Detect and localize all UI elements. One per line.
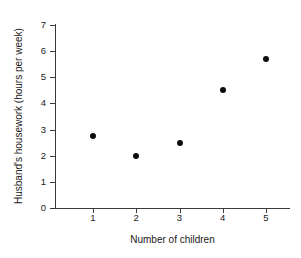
- y-axis-tick-label: 0: [30, 203, 46, 213]
- y-axis-tick: [50, 103, 55, 104]
- y-axis-tick-label: 2: [30, 151, 46, 161]
- y-axis-tick: [50, 182, 55, 183]
- y-axis-tick-label: 3: [30, 125, 46, 135]
- x-axis-title: Number of children: [55, 234, 290, 245]
- y-axis-tick: [50, 156, 55, 157]
- data-point: [263, 56, 269, 62]
- y-axis-tick-label: 6: [30, 46, 46, 56]
- y-axis-tick: [50, 25, 55, 26]
- x-axis-tick-label: 3: [177, 213, 182, 223]
- data-point: [220, 87, 226, 93]
- y-axis-tick-label: 7: [30, 20, 46, 30]
- y-axis-tick-label: 1: [30, 177, 46, 187]
- data-point: [90, 133, 96, 139]
- x-axis-tick-label: 5: [263, 213, 268, 223]
- x-axis-tick-label: 1: [90, 213, 95, 223]
- y-axis-line: [55, 24, 56, 209]
- data-point: [133, 153, 139, 159]
- x-axis-tick-label: 4: [220, 213, 225, 223]
- y-axis-tick-label: 4: [30, 99, 46, 109]
- x-axis-line: [55, 208, 290, 209]
- x-axis-tick-label: 2: [134, 213, 139, 223]
- y-axis-tick: [50, 130, 55, 131]
- y-axis-tick: [50, 77, 55, 78]
- scatter-plot-figure: 01234567 12345 Husband's housework (hour…: [0, 0, 301, 258]
- y-axis-title: Husband's housework (hours per week): [11, 24, 25, 209]
- y-axis-tick: [50, 208, 55, 209]
- y-axis-tick-label: 5: [30, 73, 46, 83]
- y-axis-tick: [50, 51, 55, 52]
- data-point: [177, 140, 183, 146]
